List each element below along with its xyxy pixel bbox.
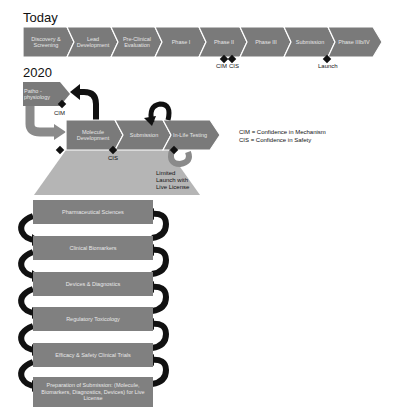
stage-preclinical: Pre-Clinical Evaluation xyxy=(117,27,157,57)
cis-label-today: CIS xyxy=(229,63,239,70)
layer-clinical-biomarkers: Clinical Biomarkers xyxy=(33,236,153,260)
stage-lead-development: Lead Development xyxy=(73,27,113,57)
stage-phase-3: Phase III xyxy=(246,27,286,57)
molecule-development-label: Molecule Development xyxy=(70,120,116,150)
launch-label: Launch xyxy=(318,63,338,70)
layer-devices-diagnostics: Devices & Diagnostics xyxy=(33,272,153,296)
legend-cim: CIM = Confidence in Mechanism xyxy=(239,128,326,136)
cis-label-2020: CIS xyxy=(108,155,118,162)
limited-launch-label: Limited Launch with Live License xyxy=(156,170,194,191)
pathophysiology-label: Patho -physiology xyxy=(24,82,62,106)
submission-label: Submission xyxy=(122,120,166,150)
legend-cis: CIS = Confidence in Safety xyxy=(239,136,311,144)
gray-arrow-down xyxy=(30,104,56,132)
stage-phase-3b-4: Phase IIIb/IV xyxy=(336,27,372,57)
layer-pharmaceutical-sciences: Pharmaceutical Sciences xyxy=(33,200,153,224)
layer-regulatory-toxicology: Regulatory Toxicology xyxy=(33,307,153,331)
stage-phase-1: Phase I xyxy=(161,27,201,57)
layer-efficacy-safety: Efficacy & Safety Clinical Trials xyxy=(33,343,153,367)
black-arrow-back xyxy=(78,92,96,120)
cim-label-2020: CIM xyxy=(54,110,65,117)
stage-phase-2: Phase II xyxy=(205,27,243,57)
cim-diamond-2020 xyxy=(56,146,64,154)
in-life-testing-label: In-Life Testing xyxy=(170,120,210,150)
stage-submission: Submission xyxy=(290,27,330,57)
cim-label-today: CIM xyxy=(216,63,227,70)
stage-discovery: Discovery & Screening xyxy=(23,27,69,57)
layer-preparation-submission: Preparation of Submission: (Molecule, Bi… xyxy=(33,377,153,407)
